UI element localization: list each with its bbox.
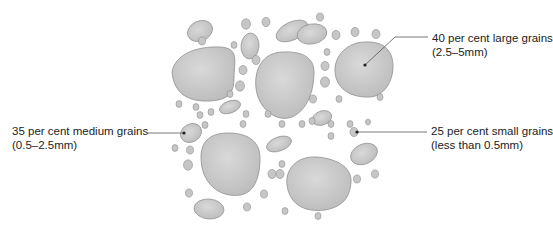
small-grain [347,121,353,128]
small-grain [317,13,324,21]
small-grain [354,175,361,183]
label-small-grains-title: 25 per cent small grains [431,124,553,138]
small-grain [321,61,329,70]
small-grain [372,170,379,178]
small-grain [279,121,285,128]
leader-dot-small [355,130,358,133]
small-grain [239,65,247,74]
small-grain [309,118,315,125]
small-grain [299,121,305,128]
medium-grain [347,139,381,169]
label-medium-grains: 35 per cent medium grains (0.5–2.5mm) [12,124,148,152]
label-large-grains-title: 40 per cent large grains [432,31,553,45]
small-grain [197,112,203,119]
small-grain [187,146,194,154]
small-grain [268,169,276,178]
small-grain [236,81,245,91]
small-grain [227,91,233,98]
medium-grain [264,133,293,155]
small-grain [199,37,206,45]
large-grain [256,52,314,118]
small-grain [276,169,284,178]
small-grain [186,189,193,197]
small-grain [336,96,342,103]
small-grain [208,109,214,116]
leader-dot-medium [182,131,185,134]
small-grain [184,160,193,170]
small-grain [310,95,317,103]
small-grain [332,30,340,39]
small-grain [328,133,334,140]
label-small-grains: 25 per cent small grains (less than 0.5m… [431,124,553,152]
large-grain [172,47,235,101]
small-grain [279,161,285,168]
small-grain [262,17,270,26]
small-grain [321,77,330,87]
small-grain [315,213,321,220]
label-large-grains: 40 per cent large grains (2.5–5mm) [432,31,553,59]
large-grain [201,133,260,195]
large-grain [335,42,393,97]
small-grain [244,203,251,211]
small-grain [202,122,208,129]
small-grain [243,111,249,118]
small-grain [328,121,334,128]
small-grain [231,42,237,49]
small-grain [193,104,199,111]
small-grain [172,145,178,152]
small-grain [324,49,330,56]
small-grain [372,29,380,38]
small-grain [252,55,260,64]
label-large-grains-range: (2.5–5mm) [432,45,553,59]
medium-grain [193,198,225,221]
small-grain [282,208,288,215]
small-grain [176,101,182,108]
small-grain [261,190,268,198]
small-grain [377,94,383,101]
small-grain [351,27,359,36]
label-small-grains-range: (less than 0.5mm) [431,138,553,152]
leader-dot-large [363,63,366,66]
medium-grain [218,98,243,117]
label-medium-grains-title: 35 per cent medium grains [12,124,148,138]
large-grain [287,157,351,211]
small-grain [242,19,251,29]
small-grain [366,119,371,125]
small-grain [240,121,246,128]
label-medium-grains-range: (0.5–2.5mm) [12,138,148,152]
small-grain [265,111,271,118]
